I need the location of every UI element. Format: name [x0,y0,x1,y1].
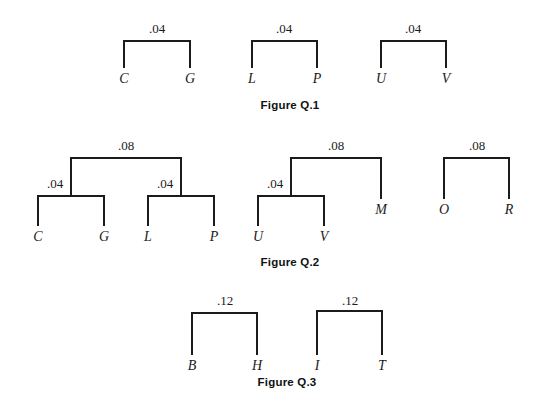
leaf-label-c-q2: C [33,229,43,244]
cluster-cg-q1: .04 C G [119,21,195,86]
leaf-label-u-q2: U [253,229,264,244]
distance-label-uv-q2: .04 [267,176,284,191]
leaf-label-l-q1: L [247,71,256,86]
distance-label-it-q3: .12 [342,293,358,308]
cluster-bh-q3: .12 B H [188,293,263,373]
distance-label-lp-q2: .04 [157,176,174,191]
leaf-label-t-q3: T [378,358,387,373]
leaf-label-m-q2: M [374,202,388,217]
figure-caption-q3: Figure Q.3 [258,376,317,388]
cluster-uvm-q2: .08 .04 U V M [253,138,388,244]
leaf-label-l-q2: L [143,229,152,244]
cluster-uv-q1: .04 U V [376,21,452,86]
leaf-label-p-q1: P [312,71,322,86]
cluster-lp-q1: .04 L P [247,21,322,86]
dendrogram-page: .04 C G .04 L P .04 U V Figure Q.1 [0,0,539,406]
cluster-or-q2: .08 O R [439,138,514,217]
leaf-label-o-q2: O [439,202,449,217]
bracket-uv-q2 [258,196,324,226]
figure-caption-q2: Figure Q.2 [261,256,320,268]
figure-q2: .08 .04 .04 C G L P .08 .04 U V M [33,138,513,268]
bracket-it-q3 [317,311,382,355]
figure-q3: .12 B H .12 I T Figure Q.3 [188,293,387,388]
distance-label-cg-q2: .04 [47,176,64,191]
bracket-cg-q2 [38,196,104,226]
leaf-label-h-q3: H [251,358,263,373]
leaf-label-u-q1: U [376,71,387,86]
leaf-label-r-q2: R [504,202,514,217]
leaf-label-v-q1: V [442,71,452,86]
leaf-label-g-q1: G [185,71,195,86]
distance-label-lp-q1: .04 [276,21,293,36]
leaf-label-p-q2: P [209,229,219,244]
bracket-top-uvm-q2 [291,158,381,199]
distance-label-cg-q1: .04 [149,21,166,36]
leaf-label-i-q3: I [314,358,321,373]
distance-label-top-uvm-q2: .08 [328,138,344,153]
leaf-label-b-q3: B [188,358,197,373]
distance-label-uv-q1: .04 [405,21,422,36]
leaf-label-g-q2: G [99,229,109,244]
figure-q1: .04 C G .04 L P .04 U V Figure Q.1 [119,21,451,111]
distance-label-or-q2: .08 [469,138,485,153]
cluster-cglp-q2: .08 .04 .04 C G L P [33,138,218,244]
bracket-cg-q1 [124,41,190,68]
cluster-it-q3: .12 I T [314,293,387,373]
bracket-uv-q1 [381,41,446,68]
figure-caption-q1: Figure Q.1 [261,99,320,111]
bracket-lp-q2 [148,196,214,226]
leaf-label-c-q1: C [119,71,129,86]
bracket-or-q2 [444,158,509,199]
leaf-label-v-q2: V [320,229,330,244]
distance-label-top-cglp-q2: .08 [118,138,134,153]
dendrogram-canvas: .04 C G .04 L P .04 U V Figure Q.1 [0,0,539,406]
bracket-bh-q3 [192,313,257,355]
bracket-lp-q1 [252,41,317,68]
distance-label-bh-q3: .12 [217,293,233,308]
